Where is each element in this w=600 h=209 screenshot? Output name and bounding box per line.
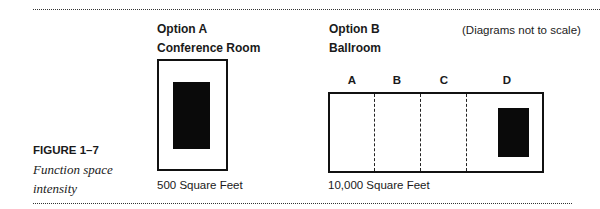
ballroom-divider-ab xyxy=(374,94,375,171)
figure-caption: Function space intensity xyxy=(33,160,113,198)
option-b-subtitle: Ballroom xyxy=(329,39,381,58)
section-label-a: A xyxy=(342,74,362,86)
option-b-heading: Option B Ballroom xyxy=(329,20,381,58)
ballroom-divider-bc xyxy=(420,94,421,171)
option-a-area: 500 Square Feet xyxy=(157,179,243,191)
option-a-heading: Option A Conference Room xyxy=(157,20,260,58)
figure-label: FIGURE 1–7 xyxy=(33,144,99,156)
section-label-c: C xyxy=(434,74,454,86)
bottom-rule xyxy=(33,203,572,204)
top-rule xyxy=(33,9,600,10)
ballroom-usage-block xyxy=(498,108,529,157)
figure-caption-line2: intensity xyxy=(33,179,113,198)
figure-caption-line1: Function space xyxy=(33,160,113,179)
conference-room-usage-block xyxy=(173,82,210,149)
option-b-title: Option B xyxy=(329,20,381,39)
option-a-subtitle: Conference Room xyxy=(157,39,260,58)
section-label-b: B xyxy=(387,74,407,86)
option-a-title: Option A xyxy=(157,20,260,39)
section-label-d: D xyxy=(497,74,517,86)
scale-note: (Diagrams not to scale) xyxy=(462,24,581,36)
ballroom-divider-cd xyxy=(466,94,467,171)
option-b-area: 10,000 Square Feet xyxy=(328,179,430,191)
